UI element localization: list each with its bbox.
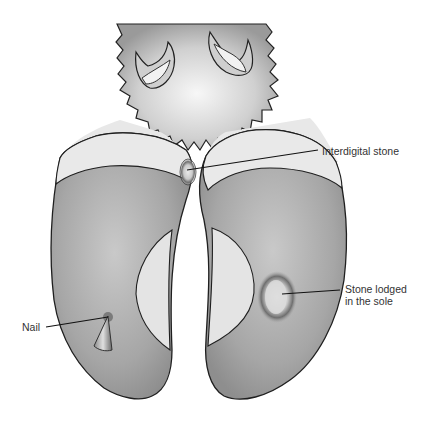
label-interdigital-stone: Interdigital stone (322, 145, 399, 157)
hoof-illustration (0, 0, 428, 432)
label-nail: Nail (22, 321, 40, 333)
right-claw (200, 130, 347, 399)
interdigital-stone (180, 159, 196, 185)
label-sole-stone-line1: Stone lodged (345, 283, 407, 295)
left-claw (51, 133, 192, 399)
hoof-diagram: Interdigital stone Stone lodged in the s… (0, 0, 428, 432)
label-sole-stone-line2: in the sole (345, 295, 393, 307)
